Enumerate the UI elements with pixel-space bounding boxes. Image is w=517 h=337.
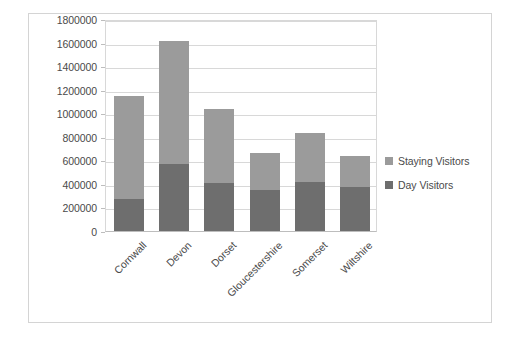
legend-swatch-icon bbox=[385, 181, 393, 189]
bar-segment-staying-visitors[interactable] bbox=[295, 133, 325, 181]
bar-segment-staying-visitors[interactable] bbox=[250, 153, 280, 190]
y-tick-label: 800000 bbox=[63, 132, 97, 144]
y-tick-label: 0 bbox=[91, 226, 97, 238]
bar-segment-staying-visitors[interactable] bbox=[204, 109, 234, 183]
bar-segment-staying-visitors[interactable] bbox=[159, 41, 189, 163]
bar-gloucestershire[interactable] bbox=[250, 153, 280, 231]
bar-segment-day-visitors[interactable] bbox=[340, 187, 370, 231]
chart-legend: Staying VisitorsDay Visitors bbox=[385, 152, 489, 200]
bar-segment-day-visitors[interactable] bbox=[250, 190, 280, 231]
bars-layer bbox=[106, 21, 376, 231]
bar-segment-day-visitors[interactable] bbox=[114, 199, 144, 231]
bar-dorset[interactable] bbox=[204, 109, 234, 231]
y-tick-label: 600000 bbox=[63, 155, 97, 167]
y-tick-label: 200000 bbox=[63, 202, 97, 214]
y-tick-mark bbox=[101, 232, 105, 233]
y-tick-label: 1600000 bbox=[57, 38, 97, 50]
legend-label: Day Visitors bbox=[398, 179, 453, 191]
bar-devon[interactable] bbox=[159, 41, 189, 231]
bar-cornwall[interactable] bbox=[114, 96, 144, 231]
bar-somerset[interactable] bbox=[295, 133, 325, 231]
y-tick-label: 400000 bbox=[63, 179, 97, 191]
x-tick-label-devon: Devon bbox=[164, 239, 194, 269]
x-tick-label-somerset: Somerset bbox=[290, 239, 330, 279]
plot-area bbox=[105, 20, 377, 232]
y-tick-label: 1800000 bbox=[57, 14, 97, 26]
legend-item-day-visitors[interactable]: Day Visitors bbox=[385, 176, 489, 194]
bar-segment-staying-visitors[interactable] bbox=[114, 96, 144, 200]
x-tick-label-dorset: Dorset bbox=[209, 239, 239, 269]
bar-segment-day-visitors[interactable] bbox=[295, 182, 325, 231]
x-tick-label-cornwall: Cornwall bbox=[111, 239, 148, 276]
y-axis: 1800000160000014000001200000100000080000… bbox=[29, 14, 101, 238]
bar-wiltshire[interactable] bbox=[340, 156, 370, 231]
bar-segment-day-visitors[interactable] bbox=[159, 164, 189, 231]
legend-label: Staying Visitors bbox=[398, 155, 469, 167]
legend-swatch-icon bbox=[385, 157, 393, 165]
chart-frame: 1800000160000014000001200000100000080000… bbox=[28, 13, 492, 323]
x-tick-label-wiltshire: Wiltshire bbox=[338, 239, 375, 276]
y-tick-label: 1000000 bbox=[57, 108, 97, 120]
bar-segment-day-visitors[interactable] bbox=[204, 183, 234, 231]
bar-segment-staying-visitors[interactable] bbox=[340, 156, 370, 188]
legend-item-staying-visitors[interactable]: Staying Visitors bbox=[385, 152, 489, 170]
x-axis: CornwallDevonDorsetGloucestershireSomers… bbox=[105, 235, 395, 305]
y-tick-label: 1400000 bbox=[57, 61, 97, 73]
y-tick-label: 1200000 bbox=[57, 85, 97, 97]
